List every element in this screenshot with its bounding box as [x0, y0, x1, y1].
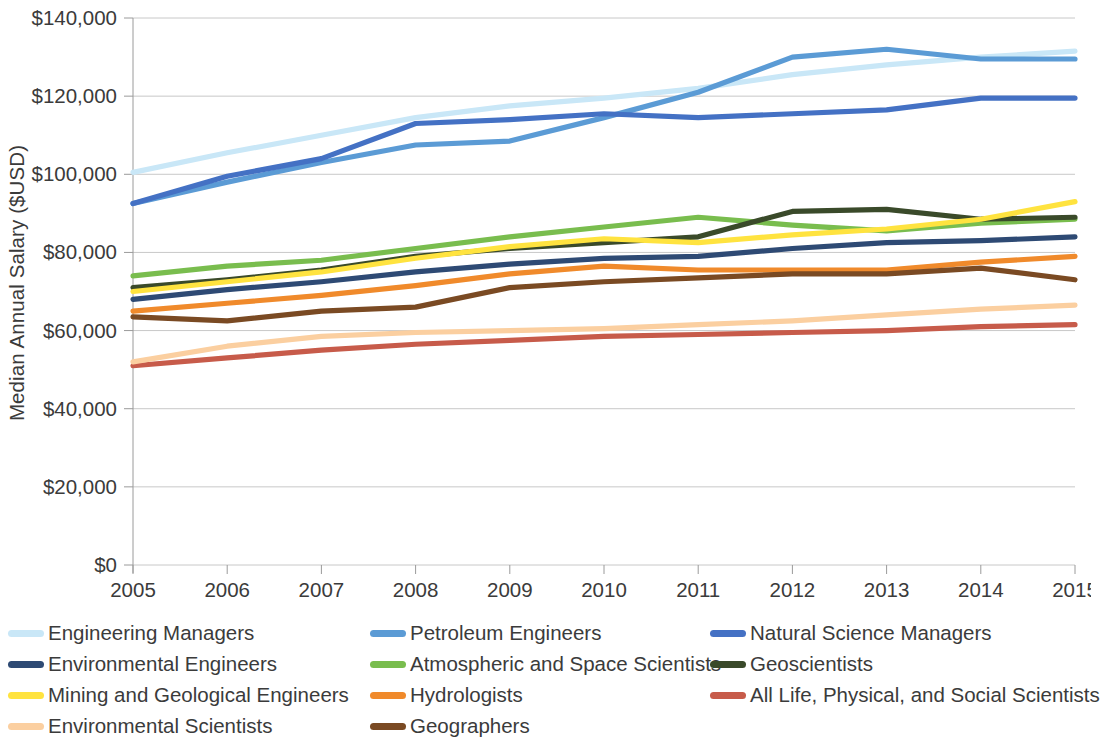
- legend-color-swatch: [710, 692, 746, 699]
- x-tick-label: 2014: [958, 578, 1004, 601]
- legend-item[interactable]: Mining and Geological Engineers: [8, 680, 349, 710]
- x-tick-label: 2005: [110, 578, 156, 601]
- chart-legend: Engineering ManagersPetroleum EngineersN…: [0, 618, 1091, 739]
- legend-item[interactable]: Environmental Engineers: [8, 649, 277, 679]
- legend-label: Environmental Engineers: [48, 654, 277, 675]
- y-tick-label: $60,000: [43, 319, 117, 342]
- legend-color-swatch: [710, 630, 746, 637]
- plot-area: $0$20,000$40,000$60,000$80,000$100,000$1…: [0, 0, 1091, 612]
- legend-item[interactable]: Geoscientists: [710, 649, 873, 679]
- legend-item[interactable]: Geographers: [370, 711, 530, 739]
- y-tick-label: $0: [94, 553, 117, 576]
- y-tick-label: $80,000: [43, 240, 117, 263]
- x-axis-ticks: 2005200620072008200920102011201220132014…: [110, 565, 1091, 601]
- legend-label: Mining and Geological Engineers: [48, 685, 349, 706]
- legend-item[interactable]: Hydrologists: [370, 680, 523, 710]
- y-axis-ticks: $0$20,000$40,000$60,000$80,000$100,000$1…: [31, 6, 133, 576]
- legend-color-swatch: [8, 723, 44, 730]
- x-tick-label: 2008: [393, 578, 439, 601]
- legend-label: Petroleum Engineers: [410, 623, 601, 644]
- gridlines: [133, 18, 1075, 573]
- legend-item[interactable]: All Life, Physical, and Social Scientist…: [710, 680, 1100, 710]
- legend-label: Natural Science Managers: [750, 623, 992, 644]
- y-tick-label: $100,000: [31, 162, 117, 185]
- x-tick-label: 2006: [204, 578, 250, 601]
- plot-svg: $0$20,000$40,000$60,000$80,000$100,000$1…: [0, 0, 1091, 612]
- x-tick-label: 2010: [581, 578, 627, 601]
- legend-label: Geographers: [410, 716, 530, 737]
- legend-item[interactable]: Engineering Managers: [8, 618, 254, 648]
- legend-label: Engineering Managers: [48, 623, 254, 644]
- x-tick-label: 2013: [864, 578, 910, 601]
- legend-label: Hydrologists: [410, 685, 523, 706]
- series-line: [133, 98, 1075, 203]
- legend-color-swatch: [370, 630, 406, 637]
- x-tick-label: 2012: [770, 578, 816, 601]
- legend-item[interactable]: Natural Science Managers: [710, 618, 992, 648]
- legend-color-swatch: [8, 630, 44, 637]
- legend-color-swatch: [710, 661, 746, 668]
- x-tick-label: 2011: [676, 578, 720, 601]
- legend-item[interactable]: Environmental Scientists: [8, 711, 272, 739]
- legend-label: Atmospheric and Space Scientists: [410, 654, 721, 675]
- y-tick-label: $20,000: [43, 475, 117, 498]
- legend-label: Environmental Scientists: [48, 716, 272, 737]
- data-series-group: [133, 49, 1075, 365]
- x-tick-label: 2009: [487, 578, 533, 601]
- y-tick-label: $120,000: [31, 84, 117, 107]
- series-line: [133, 49, 1075, 203]
- legend-item[interactable]: Atmospheric and Space Scientists: [370, 649, 721, 679]
- legend-color-swatch: [370, 661, 406, 668]
- legend-label: Geoscientists: [750, 654, 873, 675]
- y-tick-label: $140,000: [31, 6, 117, 29]
- legend-item[interactable]: Petroleum Engineers: [370, 618, 601, 648]
- x-tick-label: 2007: [299, 578, 345, 601]
- y-tick-label: $40,000: [43, 397, 117, 420]
- legend-color-swatch: [370, 692, 406, 699]
- legend-label: All Life, Physical, and Social Scientist…: [750, 685, 1100, 706]
- legend-color-swatch: [8, 661, 44, 668]
- legend-color-swatch: [8, 692, 44, 699]
- x-tick-label: 2015: [1052, 578, 1091, 601]
- legend-color-swatch: [370, 723, 406, 730]
